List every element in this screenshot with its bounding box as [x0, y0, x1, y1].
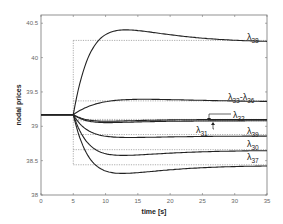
x-tick-label: 35 — [264, 198, 271, 204]
x-tick-label: 5 — [72, 198, 76, 204]
x-tick-label: 30 — [231, 198, 238, 204]
x-tick-label: 0 — [39, 198, 43, 204]
y-tick-label: 40.5 — [26, 20, 38, 26]
series-label-30: λ30 — [247, 139, 259, 151]
series-label-37: λ37 — [247, 152, 259, 164]
x-tick-label: 10 — [102, 198, 109, 204]
x-axis-label: time [s] — [142, 208, 167, 216]
y-tick-label: 39.5 — [26, 89, 38, 95]
line-chart: 051015202530353838.53939.54040.5time [s]… — [0, 0, 283, 224]
series-label-31: λ31 — [196, 125, 208, 137]
x-tick-label: 20 — [167, 198, 174, 204]
series-label-32: λ32 — [233, 110, 245, 122]
y-tick-label: 38.5 — [26, 158, 38, 164]
y-tick-label: 39 — [31, 123, 38, 129]
y-tick-label: 40 — [31, 55, 38, 61]
series-line-37 — [41, 115, 267, 174]
y-axis-label: nodal prices — [15, 84, 23, 125]
series-label-33: λ33-λ36 — [228, 92, 255, 104]
y-tick-label: 38 — [31, 192, 38, 198]
x-tick-label: 25 — [199, 198, 206, 204]
series-label-38: λ38 — [247, 32, 259, 44]
series-label-39: λ39 — [247, 126, 259, 138]
x-tick-label: 15 — [135, 198, 142, 204]
